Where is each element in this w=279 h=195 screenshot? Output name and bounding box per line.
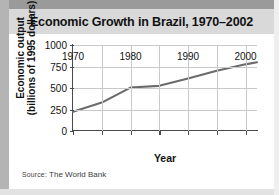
x-axis-title: Year (73, 152, 257, 164)
x-tick-label: 2000 (234, 51, 256, 62)
source-note: Source: The World Bank (22, 170, 106, 179)
y-tick-label: 500 (50, 83, 67, 94)
plot-area: 025050075010001970198019902000 (73, 45, 257, 131)
y-axis-title-line2: (billions of 1995 dollars) (26, 1, 37, 115)
y-tick-mark (70, 45, 74, 46)
x-gridline-minor (159, 45, 160, 131)
x-tick-mark-minor (217, 131, 218, 135)
y-gridline (73, 88, 257, 89)
source-label: Source (22, 171, 45, 178)
y-gridline (73, 110, 257, 111)
title-divider (9, 34, 274, 35)
x-tick-label: 1970 (62, 51, 84, 62)
series-path (73, 62, 257, 111)
x-tick-mark-minor (102, 131, 103, 135)
figure-top-edge (0, 0, 279, 9)
y-axis-title: Economic output (billions of 1995 dollar… (15, 8, 37, 108)
x-tick-mark-minor (159, 131, 160, 135)
y-tick-label: 1000 (45, 40, 67, 51)
x-gridline-minor (102, 45, 103, 131)
x-tick-mark (246, 131, 247, 135)
x-gridline-minor (217, 45, 218, 131)
y-tick-label: 250 (50, 104, 67, 115)
figure-bottom-edge (0, 189, 279, 195)
figure-left-edge (0, 0, 9, 195)
y-tick-label: 0 (61, 126, 67, 137)
source-text: : The World Bank (45, 170, 107, 179)
figure-right-edge (274, 0, 279, 195)
y-gridline (73, 45, 257, 46)
y-gridline (73, 67, 257, 68)
chart-title: Economic Growth in Brazil, 1970–2002 (9, 9, 274, 34)
chart-figure: Economic Growth in Brazil, 1970–2002 Eco… (0, 0, 279, 195)
x-tick-label: 1980 (119, 51, 141, 62)
y-tick-mark (70, 110, 74, 111)
x-tick-mark (188, 131, 189, 135)
y-tick-label: 750 (50, 61, 67, 72)
x-tick-label: 1990 (177, 51, 199, 62)
x-tick-mark (73, 131, 74, 135)
y-tick-mark (70, 88, 74, 89)
y-axis-title-line1: Economic output (15, 17, 26, 99)
y-tick-mark (70, 67, 74, 68)
x-tick-mark (131, 131, 132, 135)
